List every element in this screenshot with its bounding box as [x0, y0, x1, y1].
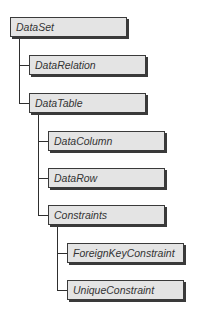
node-foreignkeyconstraint: ForeignKeyConstraint [67, 243, 184, 263]
connector-to-constraints [38, 215, 48, 216]
node-datacolumn: DataColumn [48, 131, 165, 151]
connector-to-datacolumn [38, 141, 48, 142]
class-hierarchy-diagram: DataSet DataRelation DataTable DataColum… [0, 0, 197, 314]
connector-to-foreignkeyconstraint [57, 253, 67, 254]
connector-dataset-trunk [19, 37, 20, 104]
connector-to-datatable [19, 103, 29, 104]
node-datarow: DataRow [48, 168, 165, 188]
connector-to-datarelation [19, 65, 29, 66]
node-constraints: Constraints [48, 205, 165, 225]
node-datarelation: DataRelation [29, 55, 146, 75]
connector-constraints-trunk [57, 225, 58, 291]
node-dataset: DataSet [10, 17, 127, 37]
connector-to-datarow [38, 178, 48, 179]
node-uniqueconstraint: UniqueConstraint [67, 280, 184, 300]
connector-to-uniqueconstraint [57, 290, 67, 291]
node-datatable: DataTable [29, 93, 146, 113]
connector-datatable-trunk [38, 113, 39, 216]
